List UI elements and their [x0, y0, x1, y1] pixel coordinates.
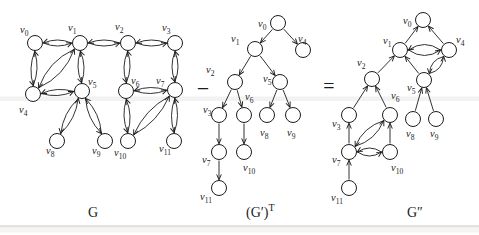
G-prime-T-node-v11 [212, 181, 227, 196]
G-double-prime-node-v2 [365, 72, 380, 87]
G-double-prime-edge-v4-v1 [409, 45, 441, 51]
G-edge-v0-v4 [31, 52, 35, 86]
G-prime-T-node-v7 [212, 145, 227, 160]
G-edge-v5-v4 [42, 89, 74, 93]
G-label-v4: v4 [19, 104, 28, 118]
G-double-prime-edge-v5-v1 [405, 57, 418, 74]
G-edge-v9-v5 [86, 99, 102, 134]
G-prime-T-node-v9 [286, 108, 301, 123]
G-prime-T-node-v0 [271, 16, 286, 31]
G-node-v3 [168, 36, 183, 51]
G-prime-T-label-v0: v0 [258, 18, 267, 32]
G-node-v4 [26, 87, 41, 102]
G-double-prime-label-v3: v3 [332, 118, 341, 132]
G-double-prime-edge-v6-v7 [355, 121, 383, 147]
G-edge-v3-v2 [137, 40, 167, 43]
G-double-prime-edge-v2-v1 [378, 56, 394, 73]
G-edge-v4-v5 [42, 92, 74, 96]
G-prime-T-label-v11: v11 [200, 191, 212, 205]
G-prime-T-node-v5 [273, 75, 288, 90]
G-edge-v0-v1 [44, 43, 72, 46]
G-prime-T-label-v1: v1 [231, 33, 240, 47]
G-double-prime-label-v7: v7 [332, 154, 341, 168]
G-edge-v10-v6 [126, 100, 130, 133]
G-double-prime-node-v6 [383, 108, 398, 123]
G-double-prime-label-v9: v9 [430, 128, 439, 142]
G-double-prime-edge-v4-v0 [429, 26, 444, 43]
G-double-prime-label-v2: v2 [357, 57, 366, 71]
G-edge-v2-v1 [89, 40, 120, 43]
scan-artifact-band-bottom [0, 228, 479, 233]
G-double-prime-node-v11 [342, 181, 357, 196]
G-edge-v6-v7 [135, 90, 167, 93]
G-label-v2: v2 [115, 21, 124, 35]
G-double-prime-label-v5: v5 [407, 82, 416, 96]
G-edge-v6-v10 [124, 100, 128, 133]
G-node-v8 [50, 134, 65, 149]
G-prime-T-node-v1 [248, 42, 263, 57]
G-double-prime-node-v5 [417, 73, 432, 88]
G-double-prime-edge-v7-v10 [358, 152, 382, 156]
G-double-prime-node-v0 [416, 13, 431, 28]
G-label-v0: v0 [20, 24, 29, 38]
G-node-v2 [121, 36, 136, 51]
G-prime-T-edge-v0-v4 [284, 29, 297, 44]
G-edge-v4-v0 [33, 52, 37, 86]
G-double-prime-node-v10 [383, 145, 398, 160]
G-prime-T-edge-v1-v2 [239, 56, 250, 74]
G-node-v1 [73, 36, 88, 51]
G-node-v9 [98, 134, 113, 149]
G-edge-v6-v2 [126, 52, 130, 83]
G-edge-v1-v5 [78, 52, 82, 83]
G-double-prime-label-v4: v4 [456, 34, 465, 48]
G-edge-v5-v8 [61, 99, 78, 134]
G-edge-v5-v9 [86, 99, 102, 134]
G-double-prime-label-v6: v6 [391, 90, 400, 104]
G-double-prime-edge-v1-v4 [409, 50, 441, 56]
G-label-v1: v1 [68, 22, 77, 36]
G-edge-v1-v2 [89, 43, 120, 46]
G-prime-T-label-v3: v3 [203, 104, 212, 118]
scan-artifact-line-bottom [0, 225, 479, 228]
G-prime-T-node-v2 [228, 75, 243, 90]
G-prime-T-label-v5: v5 [263, 73, 272, 87]
G-label-v7: v7 [156, 75, 165, 89]
G-label-v10: v10 [114, 147, 126, 161]
G-prime-T-label-v7: v7 [202, 154, 211, 168]
G-double-prime-node-v7 [342, 145, 357, 160]
G-prime-T-node-v6 [237, 108, 252, 123]
G-edge-v3-v7 [172, 52, 175, 82]
G-edge-v5-v1 [80, 52, 84, 83]
G-edge-v7-v11 [171, 99, 174, 133]
G-prime-T-node-v8 [260, 108, 275, 123]
G-prime-T-node-v3 [212, 108, 227, 123]
G-edge-v1-v0 [44, 40, 72, 43]
G-edge-v2-v3 [137, 43, 167, 46]
G-edge-v7-v3 [175, 52, 178, 82]
G-double-prime-label-v0: v0 [403, 15, 412, 29]
G-double-prime-label-v10: v10 [391, 162, 403, 176]
G-double-prime-edge-v7-v6 [355, 121, 383, 147]
figure-canvas: v0v1v2v3v4v5v6v7v8v9v10v11Gv0v1v2v3v4v5v… [0, 0, 479, 235]
G-double-prime-node-v4 [442, 43, 457, 58]
G-double-prime-node-v1 [393, 43, 408, 58]
G-label-v3: v3 [162, 22, 171, 36]
G-edge-v8-v5 [61, 99, 78, 134]
graph-figure-svg: v0v1v2v3v4v5v6v7v8v9v10v11Gv0v1v2v3v4v5v… [0, 0, 479, 235]
G-edge-v7-v10 [134, 96, 169, 134]
G-double-prime-caption: G″ [407, 205, 423, 220]
G-label-v9: v9 [92, 145, 101, 159]
G-edge-v4-v1 [39, 49, 74, 87]
G-prime-T-node-v10 [237, 145, 252, 160]
G-double-prime-label-v1: v1 [383, 35, 392, 49]
G-prime-T-caption: (G′)T [246, 202, 275, 221]
G-node-v0 [28, 36, 43, 51]
equals-sign: = [323, 75, 334, 97]
G-double-prime-node-v8 [406, 112, 421, 127]
G-prime-T-label-v10: v10 [243, 162, 255, 176]
G-node-v7 [168, 83, 183, 98]
G-double-prime-label-v8: v8 [406, 128, 415, 142]
minus-sign: − [197, 76, 209, 101]
G-double-prime-label-v11: v11 [331, 192, 343, 206]
G-prime-T-label-v6: v6 [245, 91, 254, 105]
